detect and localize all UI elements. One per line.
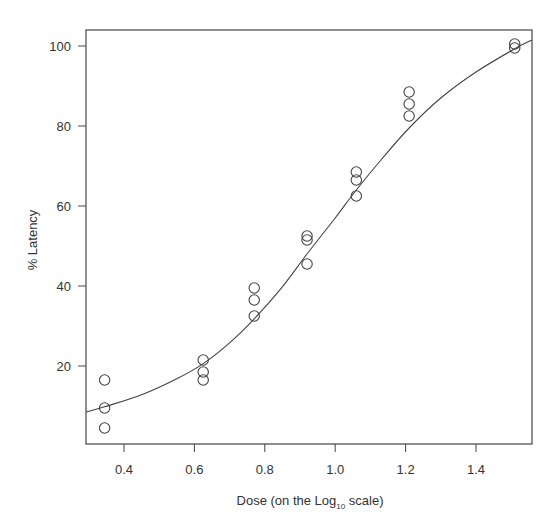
- y-axis-title: % Latency: [25, 209, 40, 270]
- x-axis: 0.40.60.81.01.21.4: [115, 444, 485, 477]
- x-tick-label: 0.6: [185, 462, 203, 477]
- y-tick-label: 80: [57, 119, 71, 134]
- x-tick-label: 0.8: [256, 462, 274, 477]
- x-tick-label: 0.4: [115, 462, 133, 477]
- x-tick-label: 1.4: [467, 462, 485, 477]
- y-tick-label: 100: [49, 39, 71, 54]
- x-axis-title: Dose (on the Log10 scale): [237, 493, 384, 511]
- y-axis: 20406080100: [49, 39, 86, 374]
- y-tick-label: 40: [57, 279, 71, 294]
- y-tick-label: 20: [57, 359, 71, 374]
- dose-response-chart: 20406080100 0.40.60.81.01.21.4 % Latency…: [0, 0, 558, 522]
- plot-area: [86, 30, 532, 444]
- x-tick-label: 1.0: [326, 462, 344, 477]
- x-tick-label: 1.2: [397, 462, 415, 477]
- y-tick-label: 60: [57, 199, 71, 214]
